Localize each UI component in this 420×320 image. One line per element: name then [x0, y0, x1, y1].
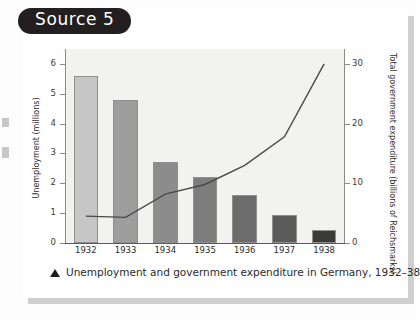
source-badge: Source 5	[18, 8, 131, 34]
x-tick-label-1935: 1935	[185, 246, 225, 255]
x-tick-label-1934: 1934	[145, 246, 185, 255]
y-tick-left	[60, 213, 65, 214]
y-tick-right	[345, 124, 350, 125]
x-tick-label-1938: 1938	[304, 246, 344, 255]
y-tick-label-left: 0	[51, 238, 56, 247]
source-card: Source 5 0123456 0102030 Unemployment (m…	[22, 10, 408, 298]
y-axis-right-title: Total government expenditure (billions o…	[388, 53, 396, 243]
y-tick-label-left: 2	[51, 178, 56, 187]
y-tick-label-right: 10	[352, 178, 363, 187]
figure-caption: Unemployment and government expenditure …	[50, 266, 394, 278]
y-tick-label-right: 20	[352, 119, 363, 128]
y-tick-left	[60, 153, 65, 154]
caption-text: Unemployment and government expenditure …	[66, 266, 420, 278]
page-margin-artifact	[2, 147, 9, 158]
y-tick-label-right: 0	[352, 238, 357, 247]
x-tick-label-1937: 1937	[265, 246, 305, 255]
x-axis	[65, 243, 345, 244]
y-tick-left	[60, 124, 65, 125]
y-axis-left-title: Unemployment (millions)	[33, 63, 41, 233]
chart-container: 0123456 0102030 Unemployment (millions) …	[22, 44, 408, 259]
y-tick-label-right: 30	[352, 59, 363, 68]
y-axis-right	[344, 49, 345, 244]
y-tick-right	[345, 64, 350, 65]
triangle-up-icon	[50, 269, 60, 277]
y-tick-right	[345, 183, 350, 184]
y-tick-right	[345, 243, 350, 244]
y-tick-label-left: 5	[51, 89, 56, 98]
x-tick-label-1936: 1936	[225, 246, 265, 255]
y-tick-label-left: 3	[51, 148, 56, 157]
line-series	[66, 49, 344, 243]
y-tick-left	[60, 183, 65, 184]
x-tick-label-1933: 1933	[106, 246, 146, 255]
x-axis-labels: 1932193319341935193619371938	[66, 246, 344, 260]
y-tick-label-left: 4	[51, 119, 56, 128]
y-tick-left	[60, 94, 65, 95]
y-tick-left	[60, 64, 65, 65]
page-margin-artifact	[2, 118, 9, 127]
y-tick-left	[60, 243, 65, 244]
x-tick-label-1932: 1932	[66, 246, 106, 255]
y-tick-label-left: 6	[51, 59, 56, 68]
y-tick-label-left: 1	[51, 208, 56, 217]
